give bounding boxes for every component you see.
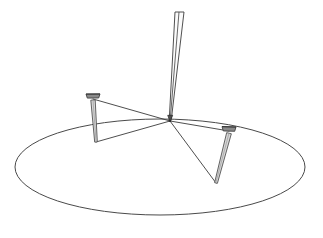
guide-line-pen-tip-to-right-nail-tip (170, 121, 216, 183)
pen (168, 12, 184, 122)
pen-contact-point-dot (169, 120, 171, 122)
scene-illustration (0, 0, 323, 238)
guide-lines-group (93, 99, 229, 183)
guide-line-pen-tip-to-right-nail-head (170, 121, 229, 131)
guide-line-pen-tip-to-left-nail-tip (96, 121, 170, 142)
right-nail (215, 127, 236, 184)
left-nail (86, 94, 100, 142)
left-nail-shaft (91, 100, 98, 142)
guide-line-pen-tip-to-left-nail-head (93, 99, 170, 121)
right-nail-shaft-highlight (216, 133, 229, 182)
left-nail-head (86, 94, 100, 98)
right-nail-shaft (215, 133, 232, 184)
ground-ellipse (15, 119, 305, 215)
drawing-canvas (0, 0, 323, 238)
